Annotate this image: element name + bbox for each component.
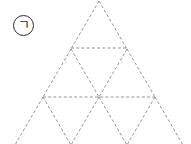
diagonal-left-line xyxy=(71,97,99,144)
diagonal-right-line xyxy=(99,1,127,49)
diagonal-left-line xyxy=(71,1,99,49)
diagonal-left-line xyxy=(127,97,155,144)
diagonal-right-line xyxy=(99,97,127,144)
diagonal-right-line xyxy=(43,97,71,144)
diagonal-right-line xyxy=(127,49,155,97)
diagonal-left-line xyxy=(99,49,127,97)
figure-container: ㄱ xyxy=(0,0,191,144)
diagonal-right-line xyxy=(155,97,183,144)
diagonal-left-line xyxy=(15,97,43,144)
item-label-circled-giyeok: ㄱ xyxy=(13,15,34,36)
diagonal-left-line xyxy=(43,49,71,97)
diagonal-right-line xyxy=(71,49,99,97)
